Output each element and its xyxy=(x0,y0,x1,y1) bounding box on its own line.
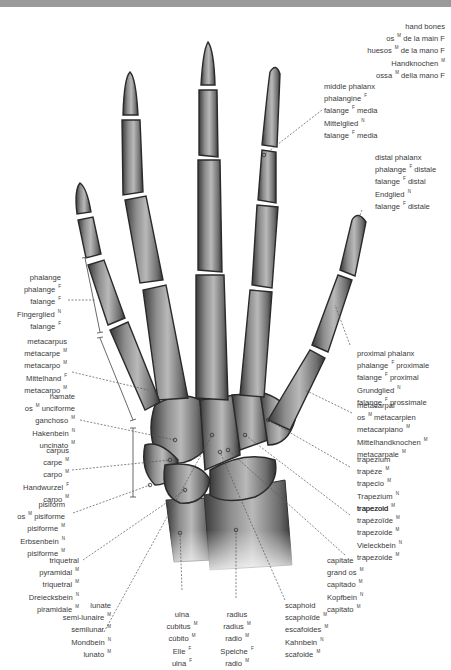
term-de: Fingerglied N xyxy=(17,307,61,319)
gender-marker: M xyxy=(245,633,249,638)
term-en: trapezoid xyxy=(357,504,402,513)
gender-marker: M xyxy=(387,478,391,483)
term-en: metacarpus xyxy=(24,337,67,346)
gender-marker: M xyxy=(36,403,40,408)
gender-marker: F xyxy=(385,372,388,377)
term-de: Grundglied N xyxy=(357,383,429,395)
label-metacarpal: metacarpal os M métacarpien metacarpiano… xyxy=(357,401,428,459)
term-de: Mittelglied N xyxy=(324,116,378,128)
term-fr: os M métacarpien xyxy=(357,410,428,422)
gender-marker: M xyxy=(395,45,399,50)
gender-marker: F xyxy=(403,176,406,181)
label-lunate: lunate semi-lunaire M semilunar M Mondbe… xyxy=(63,601,111,659)
gender-marker: N xyxy=(399,540,402,545)
gender-marker: M xyxy=(63,385,67,390)
gender-marker: F xyxy=(352,105,355,110)
term-en: lunate xyxy=(63,601,111,610)
thumb-bones xyxy=(268,215,366,430)
term-fr: grand os M xyxy=(327,565,363,577)
gender-marker: F xyxy=(58,284,61,289)
term-es: falange F media xyxy=(324,103,378,115)
term-es: trapezoide M xyxy=(357,525,402,537)
gender-marker: M xyxy=(75,567,79,572)
term-fr: métacarpe M xyxy=(24,346,67,358)
gender-marker: M xyxy=(396,515,400,520)
gender-marker: N xyxy=(62,536,65,541)
term-en: pisiform xyxy=(17,500,65,509)
gender-marker: M xyxy=(107,624,111,629)
gender-marker: M xyxy=(65,457,69,462)
term-en: distal phalanx xyxy=(375,153,436,162)
gender-marker: M xyxy=(324,624,328,629)
gender-marker: N xyxy=(320,637,323,642)
term-es: falange F distal xyxy=(375,174,436,186)
term-fr: os M unciforme xyxy=(25,401,75,413)
index-finger-bones xyxy=(240,67,280,397)
gender-marker: M xyxy=(107,612,111,617)
gender-marker: F xyxy=(409,164,412,169)
term-it: lunato M xyxy=(63,647,111,659)
term-es: falange F xyxy=(17,294,61,306)
gender-marker: F xyxy=(251,646,254,651)
gender-marker: M xyxy=(397,33,401,38)
term-es: capitado M xyxy=(327,577,363,589)
term-de: Erbsenbein N xyxy=(17,534,65,546)
gender-marker: M xyxy=(396,527,400,532)
gender-marker: M xyxy=(192,633,196,638)
gender-marker: M xyxy=(107,649,111,654)
term-en: ulna xyxy=(160,610,204,619)
term-fr: carpe M xyxy=(23,455,69,467)
gender-marker: F xyxy=(64,373,67,378)
gender-marker: M xyxy=(359,579,363,584)
term-fr: scaphoïde M xyxy=(285,610,328,622)
gender-marker: M xyxy=(395,70,399,75)
label-ulna: ulna cubitus M cúbito M Elle F ulna F xyxy=(160,610,204,668)
gender-marker: M xyxy=(63,348,67,353)
term-it: falange F distale xyxy=(375,199,436,211)
term-de: Mondbein N xyxy=(63,635,111,647)
title-line: ossa M della mano F xyxy=(367,68,445,80)
term-es: pisiforme M xyxy=(17,521,65,533)
term-en: triquetral xyxy=(29,556,79,565)
gender-marker: F xyxy=(189,646,192,651)
gender-marker: N xyxy=(76,592,79,597)
term-it: trapezoide M xyxy=(357,550,402,562)
term-fr: os M pisiforme xyxy=(17,509,65,521)
label-hamate: hamate os M unciforme ganchoso M Hakenbe… xyxy=(25,392,75,450)
gender-marker: M xyxy=(385,466,389,471)
title-line: Handknochen M xyxy=(367,56,445,68)
term-es: carpo M xyxy=(23,467,69,479)
gender-marker: M xyxy=(65,494,69,499)
term-it: scafoide M xyxy=(285,647,328,659)
gender-marker: M xyxy=(65,469,69,474)
gender-marker: F xyxy=(58,321,61,326)
gender-marker: M xyxy=(71,415,75,420)
label-phalange: phalange phalange F falange F Fingerglie… xyxy=(17,273,61,331)
term-it: ulna F xyxy=(160,656,204,668)
label-trapezoid: trapezoid trapézoïde M trapezoide M Viel… xyxy=(357,504,402,562)
gender-marker: M xyxy=(63,360,67,365)
gender-marker: M xyxy=(402,449,406,454)
label-pisiform: pisiform os M pisiforme pisiforme M Erbs… xyxy=(17,500,65,558)
gender-marker: F xyxy=(364,93,367,98)
term-it: capitato M xyxy=(327,602,363,614)
gender-marker: F xyxy=(66,482,69,487)
gender-marker: N xyxy=(72,428,75,433)
term-de: Vieleckbein N xyxy=(357,538,402,550)
gender-marker: N xyxy=(361,118,364,123)
term-de: Trapezium N xyxy=(357,489,399,501)
title-line: huesos M de la mano F xyxy=(367,43,445,55)
term-es: trapecio M xyxy=(357,476,399,488)
gender-marker: F xyxy=(391,360,394,365)
term-en: phalange xyxy=(17,273,61,282)
gender-marker: M xyxy=(316,649,320,654)
label-capitate: capitate grand os M capitado M Kopfbein … xyxy=(327,556,363,614)
gender-marker: M xyxy=(61,523,65,528)
term-es: escafoides M xyxy=(285,622,328,634)
term-es: falange F proximal xyxy=(357,370,429,382)
term-en: proximal phalanx xyxy=(357,349,429,358)
gender-marker: M xyxy=(357,604,361,609)
term-fr: phalange F xyxy=(17,282,61,294)
term-en: scaphoid xyxy=(285,601,328,610)
term-en: metacarpal xyxy=(357,401,428,410)
